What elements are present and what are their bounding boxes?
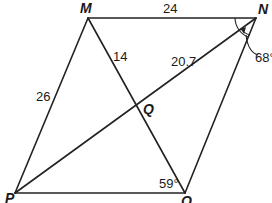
segment-label-MN: 24 [163, 1, 177, 16]
vertex-label-P: P [5, 190, 15, 203]
angle-arc-N-outer [235, 18, 248, 37]
vertex-label-M: M [80, 0, 92, 16]
vertex-label-Q: Q [143, 101, 154, 117]
vertex-label-O: O [181, 193, 192, 203]
angle-label-N: 68° [255, 50, 272, 65]
vertex-label-N: N [258, 1, 269, 17]
segment-label-NQ: 20.7 [171, 54, 196, 69]
segment-label-MQ: 14 [113, 49, 127, 64]
angle-label-O: 59° [159, 176, 179, 191]
segment-label-MP: 26 [36, 89, 50, 104]
parallelogram-diagram: M N P O Q 24 26 14 20.7 68° 59° [0, 0, 272, 203]
